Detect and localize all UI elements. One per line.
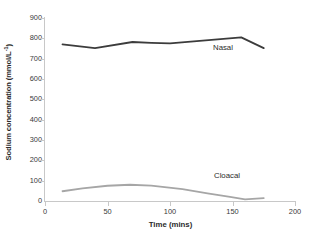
series-line-nasal [63,37,264,48]
series-annotation-nasal: Nasal [213,43,233,52]
x-axis-title: Time (mins) [45,220,296,229]
chart-container: Sodium concentration (mmol/L-1) 01002003… [0,0,309,235]
series-line-cloacal [63,185,264,200]
series-annotation-cloacal: Cloacal [214,171,240,180]
series-plot-layer [0,0,309,235]
